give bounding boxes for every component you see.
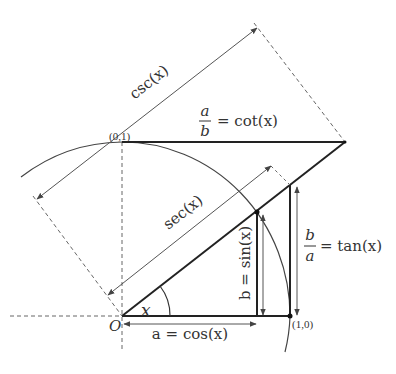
tan-rhs: = tan(x) [320, 237, 382, 255]
cot-numerator: a [201, 102, 210, 120]
sec-dashed-upper [271, 166, 290, 185]
point-cot [344, 141, 347, 144]
angle-label: x [141, 300, 151, 320]
cot-rhs: = cot(x) [217, 112, 278, 130]
point-unit-y-label: (0,1) [109, 130, 130, 143]
point-sin [255, 210, 260, 215]
angle-arc [160, 286, 170, 316]
cot-denominator: b [200, 122, 210, 140]
tan-numerator: b [305, 226, 315, 244]
origin-label: O [109, 317, 121, 335]
sin-label: b = sin(x) [236, 226, 254, 300]
csc-label: csc(x) [126, 61, 172, 103]
sec-label: sec(x) [160, 191, 207, 233]
csc-dashed-lower [33, 196, 122, 316]
cos-label: a = cos(x) [152, 325, 228, 343]
point-unit-x-label: (1,0) [292, 318, 313, 331]
unit-circle-diagram: x O (1,0) (0,1) csc(x) sec(x) a b = cot(… [0, 0, 396, 374]
tan-denominator: a [306, 247, 315, 265]
